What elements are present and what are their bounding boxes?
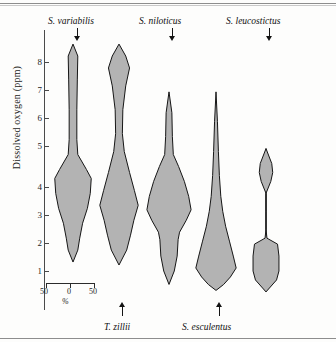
violin-s-leucostictus — [253, 149, 279, 292]
scale-label-left: 50 — [40, 288, 48, 296]
species-arrow-down-icon — [73, 28, 82, 42]
species-label-s-esculentus: S. esculentus — [182, 322, 231, 332]
arrow-head — [216, 302, 222, 307]
species-arrow-down-icon — [265, 28, 274, 42]
arrow-shaft — [219, 307, 220, 316]
plot-area: Dissolved oxygen (ppm) 87654321 50 0 50 … — [0, 0, 336, 342]
species-label-t-zillii: T. zillii — [104, 322, 130, 332]
species-label-s-variabilis: S. variabilis — [48, 16, 94, 26]
violin-t-zillii — [100, 44, 138, 265]
species-label-s-niloticus: S. niloticus — [139, 16, 181, 26]
arrow-shaft — [122, 307, 123, 316]
violin-s-niloticus — [147, 92, 191, 285]
violin-s-variabilis — [55, 44, 91, 262]
species-arrow-up-icon — [118, 302, 127, 316]
scale-label-center: 0 — [67, 288, 71, 296]
arrow-head — [74, 36, 80, 41]
arrow-head — [169, 36, 175, 41]
arrow-head — [119, 302, 125, 307]
arrow-head — [266, 36, 272, 41]
species-label-s-leucostictus: S. leucostictus — [226, 16, 280, 26]
scale-label-right: 50 — [89, 288, 97, 296]
violin-shapes-layer — [0, 0, 336, 342]
species-arrow-down-icon — [168, 28, 177, 42]
scale-unit-label: % — [62, 298, 69, 306]
violin-s-esculentus — [196, 92, 236, 291]
species-arrow-up-icon — [215, 302, 224, 316]
violin-plot-figure: Dissolved oxygen (ppm) 87654321 50 0 50 … — [0, 0, 336, 342]
